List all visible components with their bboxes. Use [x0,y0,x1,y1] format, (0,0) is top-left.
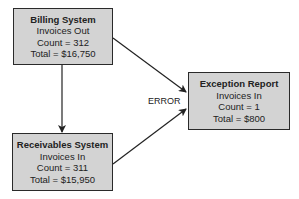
node-line: Invoices In [40,151,85,163]
node-title: Billing System [30,14,95,26]
node-line: Invoices In [216,90,261,102]
node-total: Total = $16,750 [30,48,95,60]
billing-system-node: Billing System Invoices Out Count = 312 … [13,8,113,65]
node-count: Count = 311 [37,162,88,174]
arrow-receivables-to-exception [113,109,186,164]
node-total: Total = $800 [213,113,265,125]
receivables-system-node: Receivables System Invoices In Count = 3… [12,133,113,191]
exception-report-node: Exception Report Invoices In Count = 1 T… [188,72,290,130]
node-line: Invoices Out [37,25,90,37]
node-count: Count = 312 [37,37,89,49]
arrow-billing-to-exception [113,38,186,92]
node-title: Exception Report [200,78,279,90]
node-title: Receivables System [17,139,108,151]
node-count: Count = 1 [218,101,259,113]
node-total: Total = $15,950 [30,174,95,186]
error-label: ERROR [148,96,181,106]
